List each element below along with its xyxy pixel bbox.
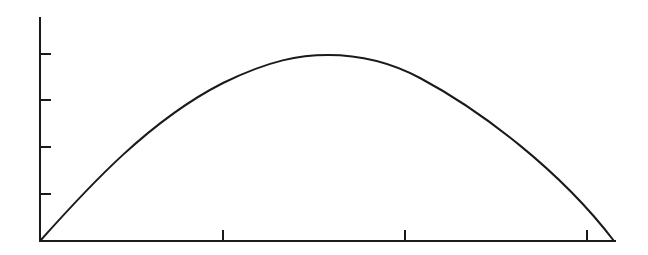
x-axis: [39, 230, 616, 241]
y-axis: [40, 17, 51, 241]
data-curve: [40, 55, 614, 241]
chart: [0, 0, 648, 255]
